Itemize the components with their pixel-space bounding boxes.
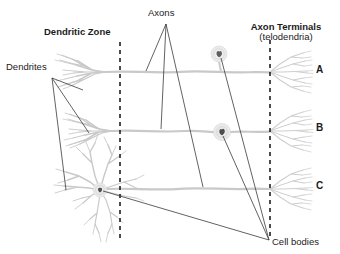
cell-body-c: [93, 183, 107, 197]
label-axon-terminals-line2: (telodendria): [250, 32, 322, 42]
cell-body-b: [214, 124, 231, 141]
row-label-a: A: [316, 64, 323, 75]
axon-terminals-b: [270, 110, 313, 152]
axon-c: [106, 188, 270, 189]
neuron-diagram: Dendritic Zone Axons Axon Terminals (tel…: [0, 0, 340, 254]
dendrites-a: [55, 54, 105, 89]
row-label-b: B: [316, 122, 323, 133]
axon-a: [105, 71, 270, 72]
label-axon-terminals: Axon Terminals (telodendria): [250, 22, 322, 43]
axon-terminals-c: [270, 168, 313, 210]
neuron-row-b: [63, 110, 313, 152]
cell-body-a: [211, 46, 227, 72]
row-label-c: C: [316, 180, 323, 191]
neuron-row-a: [55, 46, 313, 93]
axon-b: [112, 131, 214, 132]
leader-lines-cell-bodies: [103, 58, 269, 240]
neuron-row-c: [54, 134, 313, 242]
leader-lines-axons: [146, 24, 203, 187]
label-axons: Axons: [148, 8, 174, 18]
label-dendritic-zone: Dendritic Zone: [44, 27, 111, 37]
label-cell-bodies: Cell bodies: [272, 237, 319, 247]
axon-terminals-a: [270, 51, 313, 93]
label-dendrites: Dendrites: [6, 62, 47, 72]
dashed-dividers: [120, 40, 270, 240]
